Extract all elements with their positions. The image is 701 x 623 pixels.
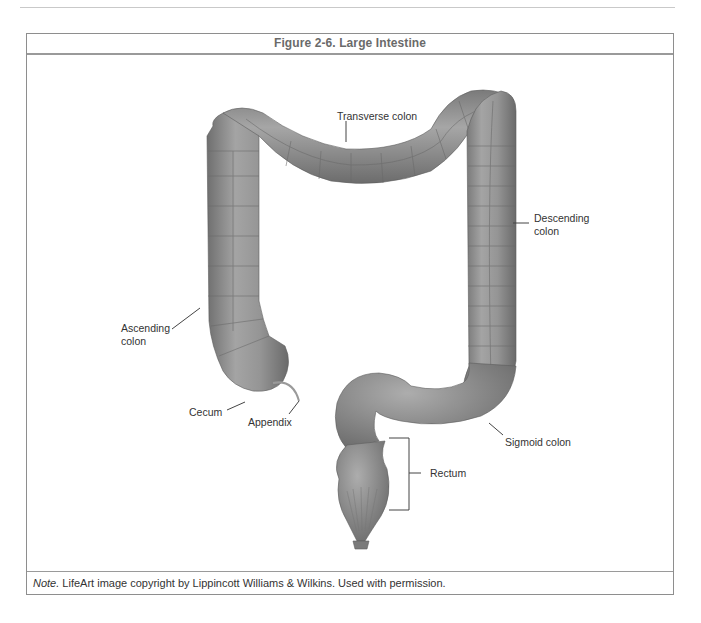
figure-title: Figure 2-6. Large Intestine xyxy=(27,34,673,55)
top-rule xyxy=(20,7,675,8)
figure-note: Note. LifeArt image copyright by Lippinc… xyxy=(27,571,673,595)
note-text: LifeArt image copyright by Lippincott Wi… xyxy=(59,577,445,589)
label-cecum: Cecum xyxy=(189,406,222,418)
rectum xyxy=(336,441,389,549)
label-descending-colon-line2: colon xyxy=(534,225,559,237)
label-descending-colon-line1: Descending xyxy=(534,212,589,224)
sigmoid-colon xyxy=(335,363,516,449)
label-sigmoid-colon: Sigmoid colon xyxy=(505,436,571,448)
descending-colon xyxy=(463,91,516,393)
label-appendix: Appendix xyxy=(248,416,292,428)
label-ascending-colon-line1: Ascending xyxy=(121,322,170,334)
label-ascending-colon-line2: colon xyxy=(121,335,146,347)
label-rectum: Rectum xyxy=(430,467,466,479)
ascending-colon xyxy=(207,113,289,391)
note-prefix: Note. xyxy=(33,577,59,589)
figure-body: Transverse colon Descending colon Ascend… xyxy=(27,55,673,571)
figure-box: Figure 2-6. Large Intestine xyxy=(26,33,674,595)
label-transverse-colon: Transverse colon xyxy=(337,110,417,122)
large-intestine-illustration xyxy=(27,55,675,571)
